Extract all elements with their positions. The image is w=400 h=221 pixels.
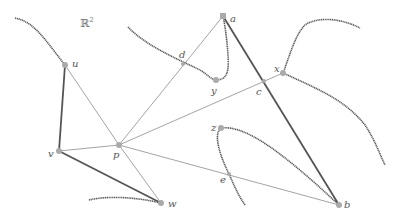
label-x: x <box>274 63 280 74</box>
edge-v-w <box>59 151 161 203</box>
label-e: e <box>220 174 226 185</box>
edge-p-x <box>119 73 283 145</box>
curve-x-right <box>283 73 385 165</box>
label-v: v <box>48 148 54 159</box>
thick-edges <box>59 16 339 205</box>
point-b <box>336 202 342 208</box>
point-w <box>158 200 164 206</box>
curve-x-top <box>283 19 360 73</box>
label-p: p <box>113 149 120 160</box>
label-w: w <box>168 198 177 209</box>
edge-p-w <box>119 145 161 203</box>
edge-p-u <box>65 65 119 145</box>
label-c: c <box>256 86 262 97</box>
edge-u-v <box>59 65 65 151</box>
point-e <box>227 172 231 176</box>
edge-p-v <box>59 145 119 151</box>
thin-edges <box>59 16 339 205</box>
label-d: d <box>179 49 185 60</box>
edge-p-a <box>119 16 223 145</box>
label-b: b <box>344 199 350 210</box>
point-a <box>220 13 226 19</box>
point-c <box>262 79 266 83</box>
point-z <box>218 125 224 131</box>
curve-into-u <box>15 18 65 65</box>
curve-d-y <box>128 27 216 80</box>
curve-y-a <box>216 16 228 80</box>
points <box>56 13 342 208</box>
label-a: a <box>230 13 236 24</box>
point-p <box>116 142 122 148</box>
point-v <box>56 148 62 154</box>
edge-a-b <box>223 16 339 205</box>
point-x <box>280 70 286 76</box>
label-y: y <box>210 85 217 96</box>
label-z: z <box>210 122 217 133</box>
point-labels: a b c d e p u v w x y z <box>48 13 350 210</box>
curve-z-down <box>217 128 245 205</box>
space-label: ℝ2 <box>80 16 94 30</box>
point-u <box>62 62 68 68</box>
label-u: u <box>72 58 78 69</box>
visibility-diagram: ℝ2 a <box>0 0 400 221</box>
point-d <box>181 62 185 66</box>
point-y <box>213 77 219 83</box>
